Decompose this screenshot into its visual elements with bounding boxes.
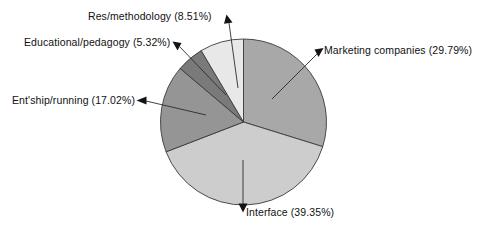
slice-label-interface: Interface (39.35%) (246, 206, 334, 218)
slice-label-research: Res/methodology (8.51%) (88, 10, 212, 22)
arrowhead-educational (173, 42, 182, 51)
arrowhead-research (224, 15, 233, 24)
pie-chart-canvas (0, 0, 487, 231)
slice-label-educational: Educational/pedagogy (5.32%) (24, 36, 170, 48)
pie-slices-group (161, 39, 327, 205)
slice-label-entship: Ent'ship/running (17.02%) (12, 94, 135, 106)
slice-label-marketing: Marketing companies (29.79%) (324, 44, 472, 56)
arrowhead-entship (137, 97, 147, 105)
pie-chart-figure: Res/methodology (8.51%) Educational/peda… (0, 0, 487, 231)
